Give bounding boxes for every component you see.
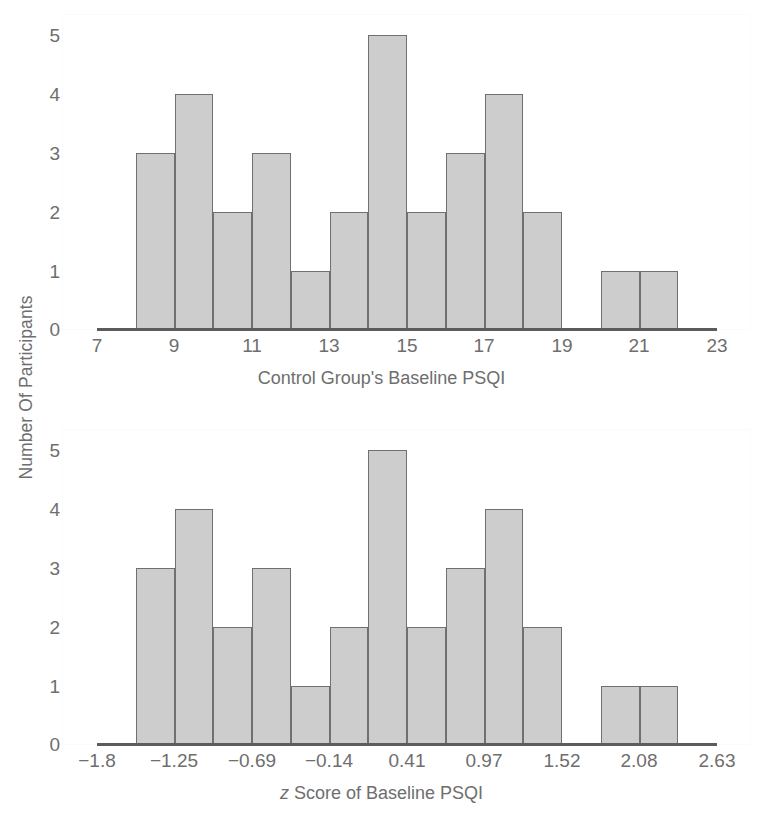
x-tick-8: 2.63	[699, 751, 736, 770]
x-axis-title-text: Score of Baseline PSQI	[294, 783, 483, 803]
histogram-bar	[485, 94, 524, 330]
x-axis-title-italic-prefix: z	[280, 783, 289, 803]
histogram-bar	[136, 153, 175, 330]
histogram-bar	[213, 212, 252, 330]
histogram-bar	[330, 627, 369, 745]
histogram-bar	[252, 153, 291, 330]
x-tick-7: 21	[628, 336, 649, 355]
histogram-bar	[601, 271, 640, 330]
histogram-bar	[640, 271, 679, 330]
histogram-bar	[291, 686, 330, 745]
x-tick-4: 0.41	[389, 751, 426, 770]
histogram-bar	[213, 627, 252, 745]
plot-area	[0, 415, 763, 755]
x-tick-3: −0.14	[305, 751, 353, 770]
histogram-bar	[368, 35, 407, 330]
x-axis-baseline	[97, 743, 717, 746]
x-tick-6: 1.52	[544, 751, 581, 770]
histogram-bar	[640, 686, 679, 745]
x-axis-title-text: Control Group's Baseline PSQI	[258, 368, 506, 388]
x-tick-1: 9	[169, 336, 180, 355]
x-tick-2: 11	[242, 336, 262, 355]
x-tick-3: 13	[318, 336, 339, 355]
x-tick-2: −0.69	[228, 751, 276, 770]
x-axis-ticks: −1.8 −1.25 −0.69 −0.14 0.41 0.97 1.52 2.…	[0, 751, 763, 785]
histogram-bar	[136, 568, 175, 745]
histogram-bar	[330, 212, 369, 330]
figure-two-histograms: Number Of Participants 0 1 2 3 4 5 7 9 1…	[0, 0, 763, 830]
x-tick-4: 15	[396, 336, 417, 355]
x-tick-0: −1.8	[78, 751, 116, 770]
x-axis-title: Control Group's Baseline PSQI	[0, 368, 763, 389]
x-tick-5: 17	[473, 336, 494, 355]
histogram-bar	[523, 627, 562, 745]
x-tick-7: 2.08	[621, 751, 658, 770]
histogram-bar	[523, 212, 562, 330]
histogram-bar	[407, 212, 446, 330]
x-axis-title: z Score of Baseline PSQI	[0, 783, 763, 804]
histogram-bar	[175, 509, 214, 745]
x-axis-ticks: 7 9 11 13 15 17 19 21 23	[0, 336, 763, 370]
x-axis-baseline	[97, 328, 717, 331]
panel-z-score-psqi: 0 1 2 3 4 5 −1.8 −1.25 −0.69 −0.14 0.41 …	[0, 415, 763, 830]
histogram-bar	[446, 568, 485, 745]
histogram-bar	[252, 568, 291, 745]
x-tick-6: 19	[551, 336, 572, 355]
histogram-bar	[407, 627, 446, 745]
histogram-bar	[368, 450, 407, 745]
x-tick-5: 0.97	[466, 751, 503, 770]
histogram-bar	[291, 271, 330, 330]
panel-control-group-psqi: 0 1 2 3 4 5 7 9 11 13 15 17 19 21 23 Con…	[0, 0, 763, 415]
histogram-bar	[601, 686, 640, 745]
x-tick-1: −1.25	[150, 751, 198, 770]
x-tick-0: 7	[92, 336, 103, 355]
plot-area	[0, 0, 763, 340]
histogram-bar	[485, 509, 524, 745]
x-tick-8: 23	[706, 336, 727, 355]
histogram-bar	[175, 94, 214, 330]
histogram-bar	[446, 153, 485, 330]
